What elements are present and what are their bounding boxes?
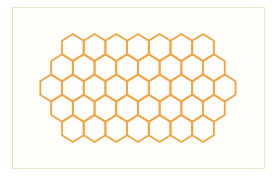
hexagon-cell — [84, 115, 106, 142]
hexagon-cell — [105, 115, 127, 142]
hexagon-cell — [192, 115, 214, 142]
hexagon-cell — [127, 115, 149, 142]
honeycomb-pattern — [0, 0, 278, 176]
hexagon-cell — [171, 115, 193, 142]
hexagon-cell — [149, 115, 171, 142]
hexagon-cell — [62, 115, 84, 142]
